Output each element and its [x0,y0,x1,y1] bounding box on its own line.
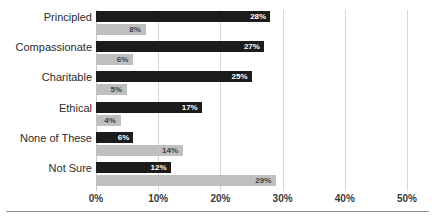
bar: 14% [96,145,183,156]
bar-value-label: 8% [129,24,141,35]
x-tick-label: 40% [335,193,355,204]
bar-value-label: 17% [182,102,198,113]
bar: 28% [96,11,270,22]
bar-value-label: 14% [162,145,178,156]
bar-group: 12%29% [96,161,407,191]
bar-value-label: 12% [151,162,167,173]
bar-value-label: 28% [250,11,266,22]
bar: 25% [96,71,252,82]
bar: 6% [96,54,133,65]
category-label: Principled [0,11,92,23]
x-tick-label: 10% [148,193,168,204]
x-tick-label: 20% [210,193,230,204]
bar-value-label: 5% [111,84,123,95]
bar-value-label: 4% [104,115,116,126]
x-tick-label: 30% [273,193,293,204]
bar-value-label: 29% [255,175,271,186]
category-axis-labels: PrincipledCompassionateCharitableEthical… [0,10,92,191]
category-label: Compassionate [0,41,92,53]
bar-value-label: 27% [244,41,260,52]
bar-group: 17%4% [96,101,407,131]
bar-group: 27%6% [96,40,407,70]
bar-chart: PrincipledCompassionateCharitableEthical… [0,0,435,220]
value-axis-labels: 0%10%20%30%40%50% [96,193,407,209]
bar: 17% [96,102,202,113]
bar-group: 25%5% [96,70,407,100]
bar-value-label: 6% [117,54,129,65]
bar-group: 28%8% [96,10,407,40]
bar-value-label: 6% [118,132,130,143]
x-tick-label: 0% [89,193,103,204]
bar: 12% [96,162,171,173]
bottom-divider [6,211,429,212]
category-label: Not Sure [0,162,92,174]
bar: 6% [96,132,133,143]
bar-group: 6%14% [96,131,407,161]
bar: 29% [96,175,276,186]
category-label: Ethical [0,102,92,114]
category-label: None of These [0,132,92,144]
plot-area: 28%8%27%6%25%5%17%4%6%14%12%29% [96,10,407,191]
category-label: Charitable [0,71,92,83]
bar: 4% [96,115,121,126]
chart-title-cutoff [14,0,254,2]
bar: 27% [96,41,264,52]
x-tick-label: 50% [397,193,417,204]
bar: 8% [96,24,146,35]
gridline-50 [407,10,408,191]
bar: 5% [96,84,127,95]
bar-value-label: 25% [231,71,247,82]
